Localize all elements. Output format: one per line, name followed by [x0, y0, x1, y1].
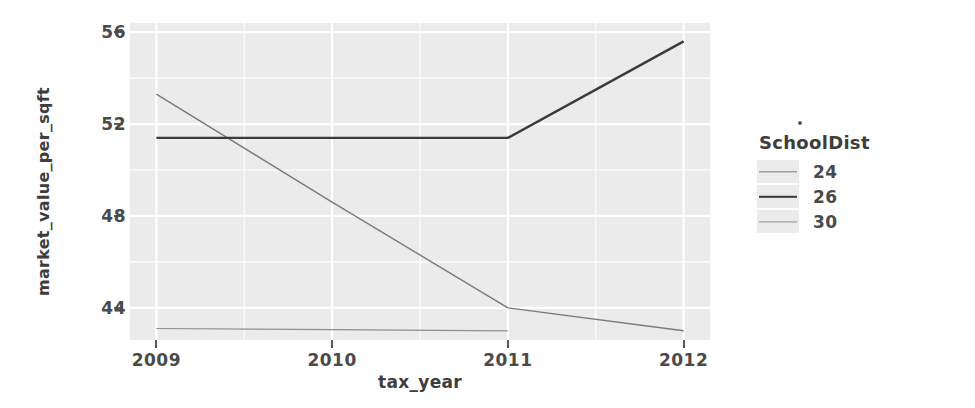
- y-tick-label: 48: [88, 206, 126, 226]
- legend: SchoolDist 242630: [757, 118, 957, 234]
- line-series-30: [156, 329, 508, 331]
- legend-key-swatch: [757, 185, 799, 208]
- x-tick-mark: [331, 340, 333, 348]
- x-tick-label: 2011: [468, 350, 548, 370]
- x-tick-label: 2009: [116, 350, 196, 370]
- legend-key-swatch: [757, 160, 799, 183]
- legend-item-label: 24: [813, 162, 838, 182]
- x-tick-mark: [683, 340, 685, 348]
- plot-panel: [130, 23, 710, 340]
- x-tick-label: 2010: [292, 350, 372, 370]
- x-axis-title: tax_year: [130, 372, 710, 392]
- legend-title: SchoolDist: [759, 132, 957, 153]
- y-tick-label: 52: [88, 114, 126, 134]
- y-tick-label: 56: [88, 22, 126, 42]
- line-series-24: [156, 94, 683, 331]
- data-lines: [130, 23, 710, 340]
- legend-item-label: 30: [813, 212, 838, 232]
- legend-dot-icon: [798, 121, 802, 125]
- legend-item-label: 26: [813, 187, 838, 207]
- legend-items: 242630: [757, 159, 957, 234]
- y-axis-title: market_value_per_sqft: [34, 67, 53, 317]
- legend-item-30[interactable]: 30: [757, 209, 957, 234]
- legend-item-26[interactable]: 26: [757, 184, 957, 209]
- line-series-26: [156, 41, 683, 137]
- x-tick-mark: [155, 340, 157, 348]
- legend-key-swatch: [757, 210, 799, 233]
- legend-item-24[interactable]: 24: [757, 159, 957, 184]
- x-tick-mark: [507, 340, 509, 348]
- chart-figure: 56524844 market_value_per_sqft 200920102…: [0, 0, 975, 408]
- y-tick-label: 44: [88, 298, 126, 318]
- x-tick-label: 2012: [644, 350, 724, 370]
